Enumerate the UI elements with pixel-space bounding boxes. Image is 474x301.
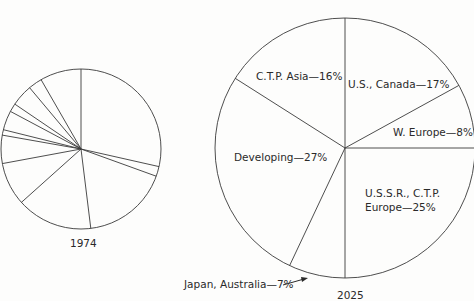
slice-boundary bbox=[235, 78, 345, 148]
pie-chart-figure: 1974 2025 C.T.P. Asia—16% U.S., Canada—1… bbox=[0, 0, 474, 301]
label-ctp-asia: C.T.P. Asia—16% bbox=[256, 70, 342, 82]
slice-boundary bbox=[15, 104, 81, 149]
slice-boundary bbox=[81, 149, 159, 167]
label-ussr-line2: Europe—25% bbox=[365, 201, 436, 213]
slice-boundary bbox=[21, 149, 81, 202]
pie-2025 bbox=[215, 18, 474, 278]
label-japan-australia: Japan, Australia—7% bbox=[183, 278, 294, 290]
label-w-europe: W. Europe—8% bbox=[393, 126, 473, 138]
slice-boundary bbox=[290, 148, 345, 266]
label-us-canada: U.S., Canada—17% bbox=[348, 78, 450, 90]
pie-1974 bbox=[1, 69, 161, 229]
slice-boundary bbox=[2, 149, 81, 164]
slice-boundary bbox=[81, 149, 156, 176]
caption-2025: 2025 bbox=[337, 289, 364, 301]
caption-1974: 1974 bbox=[70, 237, 97, 249]
slice-boundary bbox=[81, 149, 91, 228]
slice-boundary bbox=[2, 135, 81, 149]
chart-canvas: 1974 2025 C.T.P. Asia—16% U.S., Canada—1… bbox=[0, 0, 474, 301]
label-ussr-line1: U.S.S.R., C.T.P. bbox=[365, 187, 440, 199]
slice-boundary bbox=[3, 130, 81, 149]
label-developing: Developing—27% bbox=[234, 151, 327, 163]
slice-boundary bbox=[30, 88, 81, 149]
slice-boundary bbox=[345, 85, 459, 148]
